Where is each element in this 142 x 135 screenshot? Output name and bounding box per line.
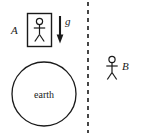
observer-b-label: B (122, 60, 129, 72)
right-scene-group: B (106, 56, 129, 79)
stick-figure-b (106, 56, 117, 79)
diagram-svg: A g earth (0, 0, 142, 135)
earth-label: earth (34, 89, 54, 100)
left-scene-group: A g earth (10, 14, 76, 127)
gravity-arrow (57, 16, 64, 44)
stick-figure-a (34, 18, 45, 41)
physics-diagram-canvas: A g earth (0, 0, 142, 135)
gravity-label: g (65, 15, 71, 27)
observer-a-label: A (10, 24, 18, 36)
